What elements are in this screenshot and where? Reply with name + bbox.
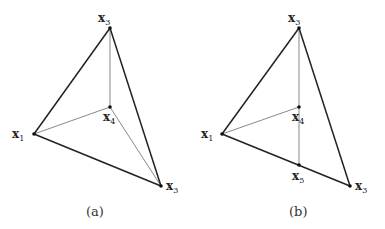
vertex-inner — [108, 105, 112, 109]
label-top: x3 — [98, 11, 110, 27]
label-inner: x4 — [292, 110, 304, 126]
edge-top-right — [110, 28, 161, 186]
caption-a: (a) — [86, 204, 104, 219]
caption-b: (b) — [289, 204, 307, 219]
label-edge: x5 — [292, 169, 304, 185]
label-right: x3 — [355, 179, 367, 195]
label-right: x3 — [166, 179, 178, 195]
vertex-right — [348, 184, 352, 188]
figure-a: x3 x1 x4 x3 (a) — [12, 11, 178, 219]
edge-left-right — [34, 134, 161, 186]
edge-top-left — [34, 28, 110, 134]
edge-left-inner — [222, 107, 299, 134]
edge-top-left — [222, 28, 299, 134]
edge-left-inner — [34, 107, 110, 134]
vertex-left — [32, 132, 36, 136]
edge-inner-right — [110, 107, 161, 186]
label-top: x3 — [288, 11, 300, 27]
edge-top-right — [299, 28, 350, 186]
label-left: x1 — [12, 127, 24, 143]
tetrahedron-diagrams: x3 x1 x4 x3 (a) x3 x1 x4 x5 x3 (b) — [0, 0, 385, 229]
vertex-edge — [297, 163, 301, 167]
vertex-inner — [297, 105, 301, 109]
label-left: x1 — [201, 127, 213, 143]
vertex-right — [159, 184, 163, 188]
vertex-left — [220, 132, 224, 136]
figure-b: x3 x1 x4 x5 x3 (b) — [201, 11, 367, 219]
edge-left-right — [222, 134, 350, 186]
